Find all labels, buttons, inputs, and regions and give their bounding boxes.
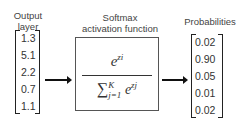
- numerator-exponent: zi: [117, 52, 123, 62]
- input-label: Output layer: [8, 10, 48, 32]
- left-bracket: [15, 30, 20, 114]
- left-bracket: [191, 34, 196, 118]
- sum-upper: K: [108, 80, 114, 90]
- output-label-line1: Probabilities: [180, 16, 240, 27]
- function-label: Softmax activation function: [70, 12, 170, 34]
- right-bracket: [35, 30, 40, 114]
- right-bracket: [218, 34, 223, 118]
- arrow-right-icon: [45, 79, 70, 81]
- input-vector: 1.3 5.1 2.2 0.7 1.1: [15, 30, 40, 114]
- denominator-exponent: zj: [131, 80, 137, 90]
- function-label-line1: Softmax: [70, 12, 170, 23]
- fraction-bar: [82, 75, 152, 76]
- formula-numerator: ezi: [76, 52, 158, 70]
- sum-symbol: ∑: [97, 80, 108, 97]
- sum-lower: j=1: [108, 90, 121, 100]
- softmax-function-box: ezi ∑Kj=1 ezj: [75, 37, 159, 111]
- arrow-right-icon: [162, 79, 186, 81]
- output-vector: 0.02 0.90 0.05 0.01 0.02: [191, 34, 223, 118]
- function-label-line2: activation function: [70, 23, 170, 34]
- output-label: Probabilities: [180, 16, 240, 27]
- formula-denominator: ∑Kj=1 ezj: [76, 80, 158, 100]
- input-label-line1: Output: [8, 10, 48, 21]
